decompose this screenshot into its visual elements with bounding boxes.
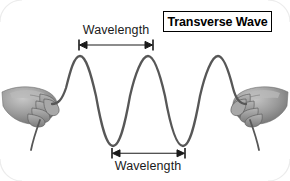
wavelength-bottom-measure-arrow	[112, 148, 185, 159]
title-box: Transverse Wave	[163, 11, 272, 32]
title-box-label: Transverse Wave	[167, 15, 267, 29]
wavelength-bottom-label: Wavelength	[98, 160, 198, 173]
right-hand-gripping-rope	[231, 87, 288, 150]
left-hand-gripping-rope	[2, 87, 59, 150]
transverse-wave-rope	[52, 56, 246, 146]
wavelength-top-measure-arrow	[79, 40, 153, 51]
transverse-wave-figure: Wavelength Wavelength Transverse Wave	[0, 0, 290, 181]
